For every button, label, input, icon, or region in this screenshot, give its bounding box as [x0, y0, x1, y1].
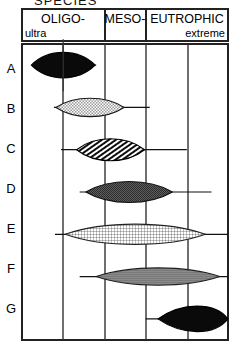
header-oligo-main: OLIGO- — [41, 12, 85, 26]
row-label-f: F — [7, 261, 15, 276]
row-label-g: G — [6, 301, 16, 316]
row-label-c: C — [6, 141, 15, 156]
header-eutrophic-main: EUTROPHIC — [150, 12, 224, 26]
header-oligo-sub: ultra — [25, 27, 47, 39]
row-label-b: B — [7, 101, 16, 116]
row-label-group: A B C D E F G — [6, 61, 16, 316]
row-label-e: E — [7, 221, 16, 236]
species-trophic-kite-diagram: SPECIES — [0, 0, 234, 346]
header-meso-main: MESO- — [105, 12, 146, 26]
header-eutrophic-sub: extreme — [185, 27, 225, 39]
clipped-title-text: SPECIES — [34, 0, 97, 8]
row-label-d: D — [6, 181, 15, 196]
diagram-canvas: OLIGO- ultra MESO- EUTROPHIC extreme A B… — [0, 0, 234, 346]
row-label-a: A — [7, 61, 16, 76]
header-row: OLIGO- ultra MESO- EUTROPHIC extreme — [22, 9, 228, 41]
